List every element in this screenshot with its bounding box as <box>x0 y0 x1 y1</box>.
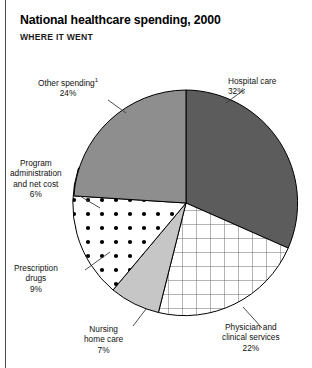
chart-page: National healthcare spending, 2000 WHERE… <box>0 0 312 368</box>
pie-label-program-line2: administration <box>10 168 62 178</box>
pie-label-physician-line1: Physician and <box>225 322 277 332</box>
pie-label-prescription-line2: drugs <box>26 273 47 283</box>
pie-label-physician-and-clinical-services: Physician and clinical services 22% <box>222 322 280 353</box>
pie-label-nursing-line2: home care <box>84 334 123 344</box>
pie-label-other-spending: Other spending1 24% <box>38 78 98 99</box>
pie-label-prescription-value: 9% <box>30 284 42 294</box>
pie-label-physician-line2: clinical services <box>222 332 280 342</box>
pie-slice-other-spending <box>74 90 186 203</box>
pie-label-program-administration-and-net-cost: Program administration and net cost 6% <box>10 158 62 200</box>
pie-label-program-line1: Program <box>20 158 52 168</box>
pie-label-prescription-drugs: Prescription drugs 9% <box>14 263 58 294</box>
pie-label-hospital-care-value: 32% <box>228 86 245 96</box>
pie-label-program-value: 6% <box>30 189 42 199</box>
pie-label-other-value: 24% <box>60 88 77 98</box>
pie-label-other-footnote-marker: 1 <box>95 77 98 83</box>
pie-label-nursing-line1: Nursing <box>89 324 118 334</box>
pie-label-physician-value: 22% <box>243 343 260 353</box>
pie-chart: Hospital care 32% Physician and clinical… <box>0 0 312 368</box>
pie-label-hospital-care-text: Hospital care <box>228 76 276 86</box>
pie-label-hospital-care: Hospital care 32% <box>228 76 276 97</box>
pie-label-prescription-line1: Prescription <box>14 263 58 273</box>
pie-label-program-line3: and net cost <box>13 179 58 189</box>
leader-line-other-spending <box>108 100 126 113</box>
pie-label-nursing-home-care: Nursing home care 7% <box>84 324 123 355</box>
pie-label-nursing-value: 7% <box>98 345 110 355</box>
pie-label-other-text: Other spending <box>38 78 95 88</box>
leader-line-nursing-home-care <box>133 309 146 326</box>
